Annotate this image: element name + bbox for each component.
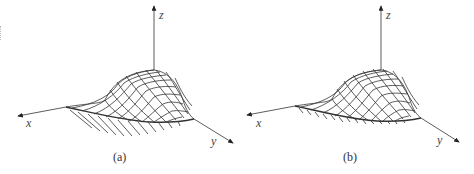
- x-axis-label: x: [26, 116, 31, 131]
- panel-b: z x y (b): [237, 0, 474, 174]
- x-axis: [247, 106, 295, 115]
- y-axis-label: y: [211, 134, 216, 149]
- panel-a: z x y (a): [0, 0, 237, 174]
- y-axis-label: y: [437, 133, 442, 148]
- z-axis-label: z: [386, 8, 391, 23]
- x-axis: [18, 107, 66, 116]
- surface-plot-a: [0, 0, 237, 174]
- caption-b: (b): [343, 150, 357, 165]
- x-axis-label: x: [256, 116, 261, 131]
- z-axis-label: z: [159, 8, 164, 23]
- caption-a: (a): [113, 150, 126, 165]
